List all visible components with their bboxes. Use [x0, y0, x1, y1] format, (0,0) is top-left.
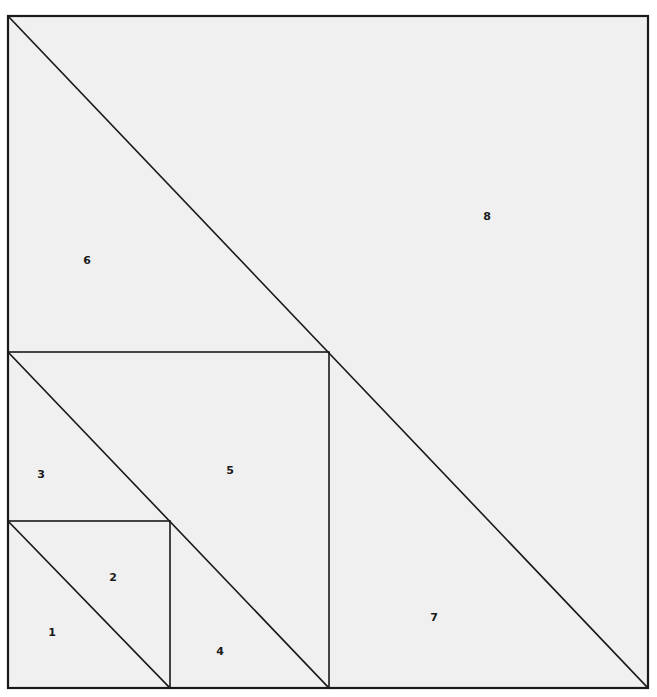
region-label-2: 2: [109, 571, 117, 584]
region-label-5: 5: [226, 464, 234, 477]
region-label-8: 8: [483, 210, 491, 223]
region-label-3: 3: [37, 468, 45, 481]
region-label-4: 4: [216, 645, 224, 658]
region-label-1: 1: [48, 626, 56, 639]
geometry-figure: 12345678: [0, 0, 657, 697]
figure-canvas: 12345678: [0, 0, 657, 697]
region-label-6: 6: [83, 254, 91, 267]
region-label-7: 7: [430, 611, 438, 624]
